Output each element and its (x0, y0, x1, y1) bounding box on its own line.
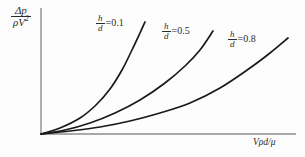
x-axis-label: Vρd/μ (253, 138, 276, 148)
pressure-drop-chart: Δp ρV2 Vρd/μ h d =0.1 h d =0.5 h d =0.8 (0, 0, 305, 157)
ratio-fraction: h d (96, 14, 105, 33)
ratio-denominator: d (96, 24, 105, 33)
ratio-value: 0.5 (177, 25, 190, 36)
ratio-value: 0.8 (243, 33, 256, 44)
curve-annotation-0: h d =0.1 (96, 14, 124, 33)
y-axis-fraction: Δp ρV2 (11, 5, 31, 28)
curve-0 (41, 22, 145, 134)
y-axis-denominator-base: ρV (13, 16, 25, 28)
curve-1 (41, 31, 213, 134)
curve-annotation-1: h d =0.5 (162, 22, 190, 41)
ratio-fraction: h d (162, 22, 171, 41)
y-axis-label: Δp ρV2 (11, 5, 31, 28)
ratio-fraction: h d (228, 30, 237, 49)
y-axis-denominator: ρV2 (11, 17, 31, 28)
curve-annotation-2: h d =0.8 (228, 30, 256, 49)
chart-plot-area (0, 0, 305, 157)
ratio-denominator: d (162, 32, 171, 41)
ratio-value: 0.1 (111, 17, 124, 28)
y-axis-denominator-exponent: 2 (25, 14, 29, 23)
ratio-denominator: d (228, 40, 237, 49)
